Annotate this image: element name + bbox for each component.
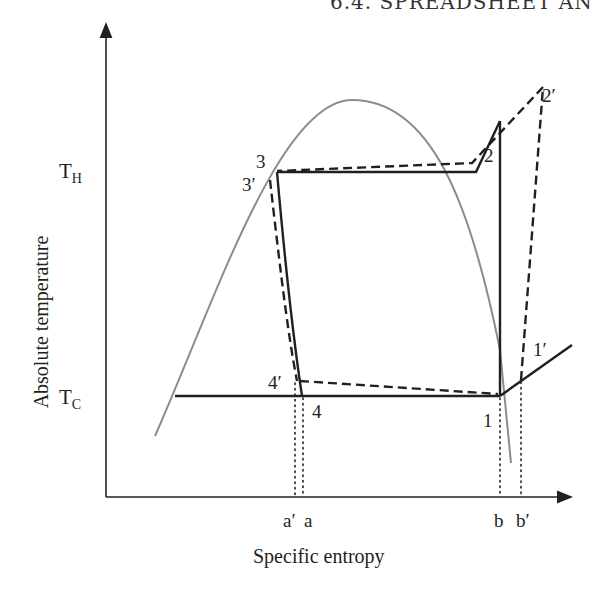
label-point-3: 3 xyxy=(256,151,266,172)
ts-diagram: Absolute temperature TH TC 3 3′ 2 2′ 4′ … xyxy=(0,0,593,595)
label-point-2: 2 xyxy=(484,145,494,166)
condensation-2p-3p xyxy=(277,87,543,171)
tick-a-prime: a′ xyxy=(283,510,296,531)
condensation-2-3 xyxy=(277,121,500,172)
tick-b-prime: b′ xyxy=(516,510,530,531)
saturation-dome xyxy=(155,100,511,463)
expansion-3-4 xyxy=(277,172,302,396)
actual-cycle xyxy=(270,87,543,394)
compression-1p-2p xyxy=(521,87,543,380)
ideal-cycle xyxy=(175,121,572,396)
expansion-3p-4p xyxy=(270,180,297,381)
entropy-projections xyxy=(295,382,521,495)
label-point-4: 4 xyxy=(312,401,322,422)
tick-a: a xyxy=(304,510,313,531)
axes xyxy=(106,30,565,497)
evaporation-4p-1 xyxy=(300,381,498,394)
x-axis-label: Specific entropy xyxy=(253,545,385,568)
label-point-4-prime: 4′ xyxy=(268,372,282,393)
tick-b: b xyxy=(494,510,504,531)
y-axis-label: Absolute temperature xyxy=(30,236,53,409)
label-point-1-prime: 1′ xyxy=(533,339,547,360)
label-point-2-prime: 2′ xyxy=(542,85,556,106)
label-point-1: 1 xyxy=(483,410,493,431)
tick-th: TH xyxy=(59,159,82,186)
tick-tc: TC xyxy=(59,385,81,412)
label-point-3-prime: 3′ xyxy=(242,174,256,195)
